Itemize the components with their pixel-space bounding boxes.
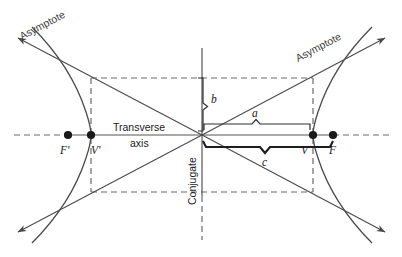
point-vertex-left: [87, 131, 95, 139]
bracket-b: [198, 78, 208, 131]
bracket-a-path: [204, 120, 310, 131]
asymptote-lower-right-ray: [202, 135, 385, 232]
bracket-a: [204, 120, 310, 131]
vertex-left-label: V': [91, 144, 101, 156]
conjugate-axis-label: Conjugate: [186, 157, 198, 205]
hyperbola-diagram: Asymptote Asymptote Transverse axis Conj…: [0, 0, 402, 257]
transverse-axis-label-line2: axis: [130, 137, 149, 149]
semi-major-label: a: [252, 107, 258, 119]
asymptote-left-label: Asymptote: [17, 8, 67, 42]
point-vertex-right: [309, 131, 317, 139]
point-focus-right: [329, 131, 337, 139]
focal-distance-label: c: [262, 156, 267, 168]
text-labels: Asymptote Asymptote Transverse axis Conj…: [17, 8, 343, 205]
semi-minor-label: b: [211, 93, 217, 105]
focus-right-label: F: [328, 144, 337, 156]
asymptote-lower-left-ray: [18, 135, 202, 232]
vertex-right-label: V: [301, 144, 310, 156]
bracket-b-path: [198, 78, 208, 131]
transverse-axis-label-line1: Transverse: [113, 121, 165, 133]
focus-left-label: F': [59, 144, 70, 156]
asymptote-right-label: Asymptote: [293, 30, 343, 64]
hyperbola-svg: Asymptote Asymptote Transverse axis Conj…: [0, 0, 402, 257]
asymptote-upper-left-ray: [18, 38, 202, 135]
point-focus-left: [64, 131, 72, 139]
